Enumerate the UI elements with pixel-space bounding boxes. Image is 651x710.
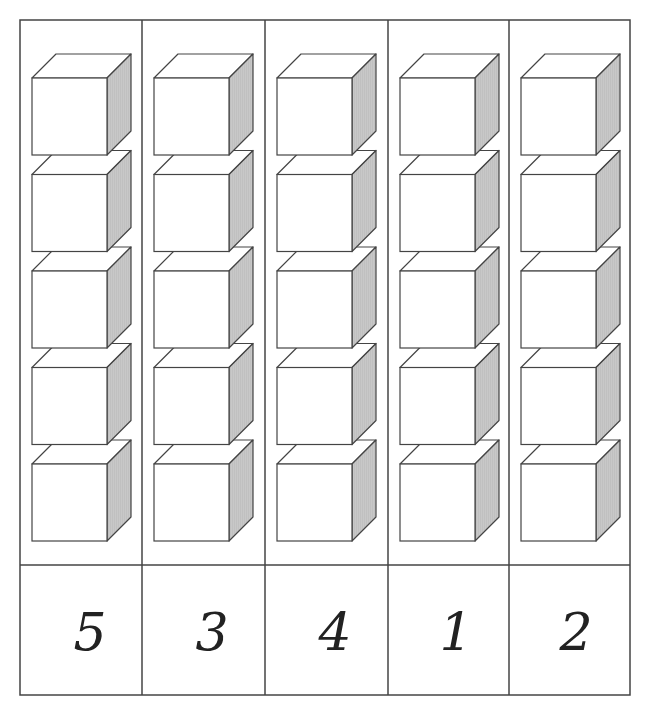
cube-front-face xyxy=(277,464,352,541)
cube-front-face xyxy=(521,368,596,445)
cube-front-face xyxy=(400,78,475,155)
cube-front-face xyxy=(521,175,596,252)
cube-front-face xyxy=(521,78,596,155)
number-label-4: 1 xyxy=(426,602,486,662)
cube-front-face xyxy=(277,78,352,155)
cube-front-face xyxy=(154,78,229,155)
cube-front-face xyxy=(32,368,107,445)
cube-front-face xyxy=(154,368,229,445)
cube-front-face xyxy=(154,464,229,541)
cube-front-face xyxy=(521,464,596,541)
cube-front-face xyxy=(400,271,475,348)
cube-front-face xyxy=(400,175,475,252)
cube-front-face xyxy=(32,175,107,252)
number-label-5: 2 xyxy=(546,602,606,662)
cube-front-face xyxy=(400,464,475,541)
cube-front-face xyxy=(277,175,352,252)
cube-front-face xyxy=(32,271,107,348)
cube-front-face xyxy=(154,271,229,348)
cube-front-face xyxy=(277,271,352,348)
cube-front-face xyxy=(32,78,107,155)
counting-worksheet: 5 3 4 1 2 xyxy=(0,0,651,710)
number-label-2: 3 xyxy=(182,602,242,662)
cube-front-face xyxy=(521,271,596,348)
number-label-1: 5 xyxy=(60,602,120,662)
number-label-3: 4 xyxy=(305,602,365,662)
cube-front-face xyxy=(400,368,475,445)
cube-front-face xyxy=(277,368,352,445)
cube-front-face xyxy=(154,175,229,252)
cube-front-face xyxy=(32,464,107,541)
